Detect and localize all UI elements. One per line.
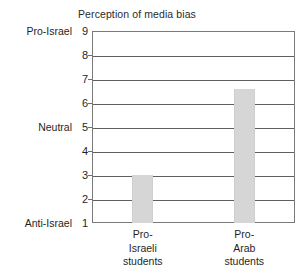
y-tick-label: 8 (76, 50, 88, 61)
x-category-label-line: students (97, 255, 189, 269)
x-category-label-line: Arab (198, 242, 290, 256)
x-category-label-line: Israeli (97, 242, 189, 256)
x-category-label: Pro-Arabstudents (198, 228, 290, 269)
y-tick-label: 6 (76, 98, 88, 109)
y-tick-label: 5 (76, 122, 88, 133)
y-tick-mark (88, 55, 92, 56)
bar (132, 175, 153, 223)
y-axis-anchor-label: Pro-Israel (4, 26, 72, 37)
y-tick-mark (88, 175, 92, 176)
bar (234, 89, 255, 223)
x-category-label-line: students (198, 255, 290, 269)
y-tick-label: 1 (76, 218, 88, 229)
y-tick-mark (88, 103, 92, 104)
y-tick-mark (88, 199, 92, 200)
x-category-label-line: Pro- (198, 228, 290, 242)
x-category-label: Pro-Israelistudents (97, 228, 189, 269)
y-tick-mark (88, 127, 92, 128)
y-axis-anchor-label: Neutral (4, 122, 72, 133)
y-axis-anchor-label: Anti-Israel (4, 218, 72, 229)
x-category-label-line: Pro- (97, 228, 189, 242)
y-tick-label: 4 (76, 146, 88, 157)
y-tick-label: 2 (76, 194, 88, 205)
y-tick-mark (88, 151, 92, 152)
y-tick-label: 7 (76, 74, 88, 85)
y-tick-mark (88, 79, 92, 80)
bar-chart-figure: Perception of media bias 987654321Pro-Is… (0, 0, 308, 274)
y-tick-label: 9 (76, 26, 88, 37)
y-tick-label: 3 (76, 170, 88, 181)
